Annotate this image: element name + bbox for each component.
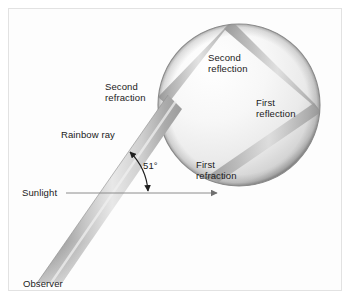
label-second-refraction-line2: refraction — [105, 92, 146, 103]
label-second-refraction: Second refraction — [105, 81, 146, 103]
label-first-reflection-line2: reflection — [256, 108, 296, 119]
label-angle-51-degrees: 51° — [143, 160, 158, 171]
rainbow-ray-diagram: Second reflection First reflection First… — [0, 0, 352, 301]
diagram-canvas — [0, 0, 352, 301]
label-second-reflection: Second reflection — [208, 52, 248, 74]
label-observer: Observer — [23, 278, 63, 289]
label-first-reflection: First reflection — [256, 97, 296, 119]
label-sunlight: Sunlight — [22, 187, 57, 198]
label-first-refraction: First refraction — [196, 159, 237, 181]
label-second-reflection-line2: reflection — [208, 63, 248, 74]
label-first-refraction-line1: First — [196, 159, 237, 170]
rainbow-ray-beam — [37, 95, 182, 283]
label-second-reflection-line1: Second — [208, 52, 248, 63]
label-rainbow-ray: Rainbow ray — [61, 129, 115, 140]
label-first-reflection-line1: First — [256, 97, 296, 108]
label-second-refraction-line1: Second — [105, 81, 146, 92]
label-first-refraction-line2: refraction — [196, 170, 237, 181]
